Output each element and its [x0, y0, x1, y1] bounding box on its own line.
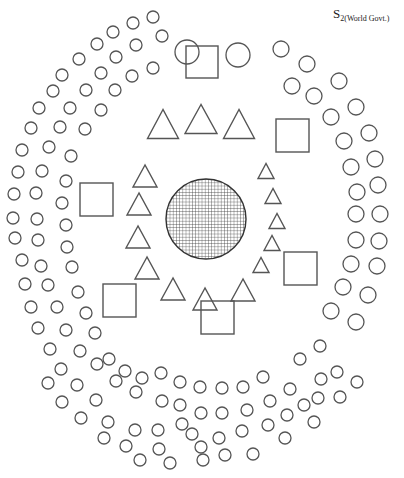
medium-circle — [369, 258, 385, 274]
small-circle — [156, 30, 168, 42]
large-circle — [226, 43, 250, 67]
medium-circle — [349, 184, 365, 200]
small-circle — [334, 391, 346, 403]
medium-circle — [323, 109, 339, 125]
small-circle — [247, 448, 259, 460]
medium-circle — [348, 232, 364, 248]
small-circle — [134, 454, 146, 466]
small-circle — [107, 26, 119, 38]
small-circle — [110, 51, 122, 63]
medium-circle — [348, 99, 364, 115]
small-circle — [54, 121, 66, 133]
small-circle — [126, 70, 138, 82]
small-circle — [80, 84, 92, 96]
small-circle — [257, 371, 269, 383]
small-circle — [197, 454, 209, 466]
small-circle — [25, 301, 37, 313]
medium-circle — [343, 256, 359, 272]
small-circle — [219, 449, 231, 461]
medium-circle — [284, 78, 300, 94]
square — [276, 119, 309, 152]
square — [186, 46, 218, 78]
small-circle — [32, 322, 44, 334]
small-circle — [102, 416, 114, 428]
small-circle — [147, 11, 159, 23]
small-circle — [73, 53, 85, 65]
small-circle — [60, 324, 72, 336]
small-circle — [56, 396, 68, 408]
medium-circle — [371, 233, 387, 249]
small-circle — [56, 69, 68, 81]
small-circle — [194, 381, 206, 393]
medium-circle — [331, 73, 347, 89]
small-circle — [16, 254, 28, 266]
small-circle — [16, 144, 28, 156]
square — [103, 284, 136, 317]
square — [201, 301, 234, 334]
small-circle — [56, 197, 68, 209]
small-circle — [119, 365, 131, 377]
small-circle — [147, 62, 159, 74]
small-circle — [130, 39, 142, 51]
medium-circle — [273, 41, 289, 57]
medium-circle — [348, 314, 364, 330]
triangle — [253, 258, 269, 273]
triangle — [185, 105, 217, 134]
small-circle — [284, 383, 296, 395]
small-circle — [152, 424, 164, 436]
triangle — [258, 164, 274, 179]
triangle — [269, 214, 285, 229]
large-circle — [175, 40, 199, 64]
small-circle — [72, 286, 84, 298]
small-circle — [153, 443, 165, 455]
center-hatched-circle — [166, 179, 246, 259]
medium-circle — [348, 206, 364, 222]
small-circle — [279, 432, 291, 444]
small-circle — [80, 307, 92, 319]
triangle — [133, 165, 157, 187]
small-circle — [12, 166, 24, 178]
small-circle — [95, 104, 107, 116]
small-circle — [47, 85, 59, 97]
small-circle — [60, 175, 72, 187]
small-circle — [89, 327, 101, 339]
small-circle — [298, 399, 310, 411]
medium-circle — [323, 303, 339, 319]
small-circle — [216, 407, 228, 419]
medium-circle — [343, 159, 359, 175]
small-circle — [237, 381, 249, 393]
small-circle — [19, 278, 31, 290]
small-circle — [176, 418, 188, 430]
small-circle — [44, 343, 56, 355]
small-circle — [103, 353, 115, 365]
small-circle — [264, 395, 276, 407]
small-circle — [42, 279, 54, 291]
medium-circle — [299, 56, 315, 72]
diagram-canvas — [0, 0, 404, 478]
small-circle — [136, 372, 148, 384]
diagram-label: S2(World Govt.) — [333, 6, 389, 23]
small-circle — [75, 412, 87, 424]
square — [80, 183, 113, 216]
small-circle — [90, 394, 102, 406]
medium-circle — [367, 151, 383, 167]
small-circle — [7, 212, 19, 224]
hatched-circle — [166, 179, 246, 259]
small-circle — [8, 188, 20, 200]
small-circle — [95, 67, 107, 79]
small-circle — [65, 150, 77, 162]
small-circle — [9, 232, 21, 244]
small-circle — [281, 409, 293, 421]
small-circle — [174, 399, 186, 411]
small-circle — [71, 379, 83, 391]
small-circle — [42, 377, 54, 389]
small-circle — [262, 419, 274, 431]
small-circle — [186, 428, 198, 440]
small-circle — [294, 353, 306, 365]
small-circle — [315, 373, 327, 385]
small-circle — [331, 366, 343, 378]
triangle — [161, 278, 185, 300]
small-circle — [127, 17, 139, 29]
small-circle — [130, 386, 142, 398]
triangle — [224, 110, 255, 139]
